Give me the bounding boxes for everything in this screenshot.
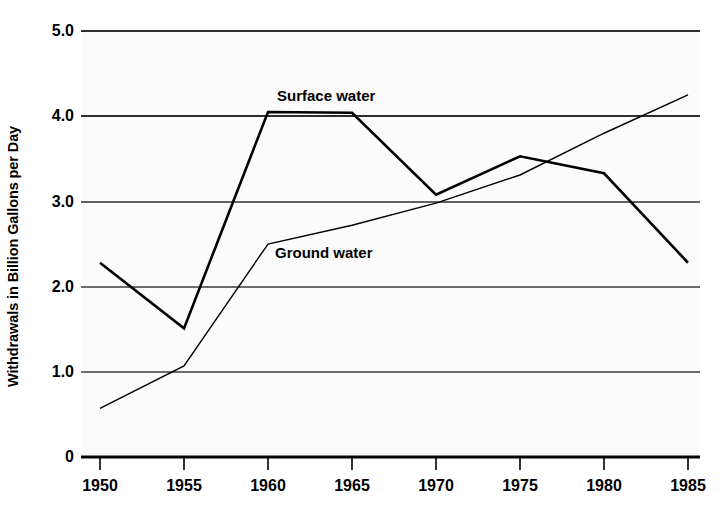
x-tick-label: 1970 [418, 477, 454, 495]
x-tick-label: 1955 [166, 477, 202, 495]
series-label-ground-water: Ground water [275, 244, 373, 261]
series-label-surface-water: Surface water [277, 87, 375, 104]
x-tick-label: 1965 [334, 477, 370, 495]
x-tick-label: 1960 [250, 477, 286, 495]
x-tick-label: 1985 [670, 477, 706, 495]
x-tick-label: 1975 [502, 477, 538, 495]
line-chart: Withdrawals in Billion Gallons per Day 5… [0, 0, 722, 513]
x-tick-label: 1950 [82, 477, 118, 495]
x-tick-label: 1980 [586, 477, 622, 495]
